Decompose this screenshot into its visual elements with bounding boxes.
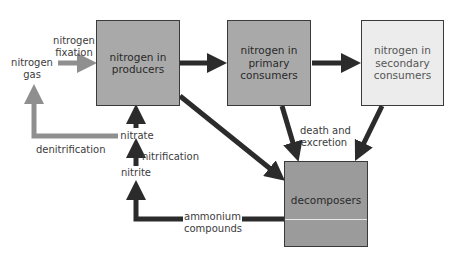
node-primary-consumers: nitrogen inprimaryconsumers (227, 20, 311, 106)
ammonium-arrow (136, 189, 183, 219)
nitrogen-fixation-label: nitrogenfixation (52, 35, 96, 59)
secondary-line-2: secondary (375, 57, 429, 69)
producers-to-decomposers-arrow (180, 96, 278, 175)
nitrogen-gas-label: nitrogengas (3, 57, 61, 81)
node-decomposers: decomposers (284, 161, 368, 247)
secondary-line-3: consumers (374, 69, 431, 81)
decomposers-label: decomposers (291, 194, 361, 207)
primary-line-1: nitrogen in (241, 44, 298, 56)
nitrification-label: nitrification (142, 151, 196, 163)
secondary-line-1: nitrogen in (374, 44, 431, 56)
node-producers: nitrogen inproducers (96, 20, 180, 106)
primary-to-decomposers-arrow (282, 106, 296, 153)
denitrification-label: denitrification (36, 144, 102, 156)
decomposers-divider (285, 219, 367, 220)
primary-line-2: primary (248, 57, 289, 69)
nitrate-label: nitrate (120, 130, 154, 142)
producers-line-1: nitrogen in (110, 51, 167, 63)
ammonium-compounds-label: ammoniumcompounds (184, 211, 242, 235)
node-secondary-consumers: nitrogen insecondaryconsumers (361, 20, 444, 106)
primary-line-3: consumers (240, 69, 297, 81)
secondary-to-decomposers-arrow (359, 106, 382, 153)
death-excretion-label: death andexcretion (300, 125, 348, 149)
producers-line-2: producers (112, 63, 165, 75)
nitrite-label: nitrite (120, 167, 152, 179)
